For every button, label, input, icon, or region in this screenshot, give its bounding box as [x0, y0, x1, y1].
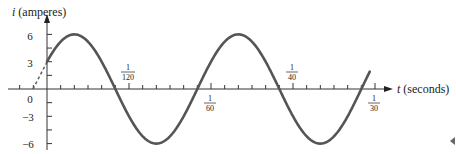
x-tick-label-1-30: 1 30 [368, 94, 380, 113]
y-tick-label-6: 6 [27, 30, 33, 42]
y-tick-label-minus6: −6 [22, 138, 34, 150]
svg-text:40: 40 [288, 73, 296, 82]
x-axis-arrow-icon [384, 86, 393, 92]
page-marker-icon [450, 137, 455, 145]
dashed-phase-line [33, 62, 47, 89]
y-tick-label-0: 0 [27, 93, 33, 105]
y-tick-label-3: 3 [27, 57, 33, 69]
svg-text:30: 30 [370, 104, 378, 113]
y-tick-label-minus3: −3 [22, 111, 34, 123]
x-axis-title: t(seconds) [397, 82, 449, 96]
svg-text:1: 1 [372, 94, 376, 103]
svg-text:1: 1 [290, 63, 294, 72]
svg-text:60: 60 [206, 104, 214, 113]
svg-text:120: 120 [122, 73, 134, 82]
y-axis-title: i(amperes) [12, 5, 66, 19]
svg-text:1: 1 [126, 63, 130, 72]
x-tick-label-1-40: 1 40 [286, 63, 298, 82]
sine-current-chart: i(amperes) t(seconds) 6 3 0 −3 −6 1 120 … [0, 0, 456, 154]
x-tick-label-1-120: 1 120 [121, 63, 135, 82]
x-tick-label-1-60: 1 60 [204, 94, 216, 113]
svg-text:1: 1 [208, 94, 212, 103]
